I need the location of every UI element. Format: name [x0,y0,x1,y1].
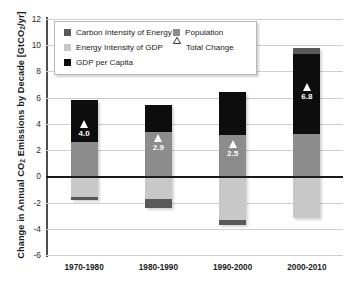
y-axis-title-sub-1: 2 [19,159,26,163]
bar-segment[interactable] [293,134,320,176]
total-change-marker [80,120,88,128]
bar-segment[interactable] [71,142,98,176]
bar-segment[interactable] [145,199,172,208]
y-axis-tick-label: 10 [32,40,41,50]
legend-color-swatch [173,29,180,36]
legend-item-label: Carbon Intensity of Energy [76,28,172,37]
legend-item[interactable]: GDP per Capita [64,58,133,67]
legend-item[interactable]: Population [173,28,223,37]
bar-segment[interactable] [71,176,98,196]
legend-item[interactable]: Total Change [173,43,234,52]
legend-item-label: GDP per Capita [76,58,133,67]
legend-item-label: Population [185,28,223,37]
total-change-marker [303,83,311,91]
legend-color-swatch [64,29,71,36]
y-axis-tick-label: -4 [34,224,41,234]
bar-segment[interactable] [219,176,246,219]
y-axis-tick-label: 6 [36,93,41,103]
y-axis-tick-label: 12 [32,14,41,24]
y-axis-title-sub-2: 2 [19,26,26,30]
legend-item-label: Total Change [186,43,234,52]
chart-figure: Change in Annual CO2 Emissions by Decade… [0,0,353,284]
bar-segment[interactable] [293,176,320,218]
y-axis-title-text-3: /yr] [16,11,26,26]
bar-segment[interactable] [71,197,98,200]
legend-color-swatch [64,59,71,66]
total-change-value-label: 4.0 [79,129,90,138]
zero-line: 0 [46,176,343,178]
y-axis-tick-label: 4 [36,119,41,129]
total-change-value-label: 2.9 [153,143,164,152]
x-axis-tick-label: 1970-1980 [65,263,104,272]
y-axis-tick-label: 2 [36,145,41,155]
x-axis-tick-label: 1990-2000 [213,263,252,272]
y-axis-line [46,17,48,257]
chart-legend: Carbon Intensity of EnergyEnergy Intensi… [54,21,257,75]
bar-segment[interactable] [219,92,246,135]
legend-item[interactable]: Carbon Intensity of Energy [64,28,172,37]
legend-item[interactable]: Energy Intensity of GDP [64,43,163,52]
total-change-marker [154,134,162,142]
bar-segment[interactable] [145,176,172,199]
legend-item-label: Energy Intensity of GDP [76,43,163,52]
y-axis-tick-label: 0 [36,171,41,181]
legend-color-swatch [64,44,71,51]
y-axis-tick-label: -6 [34,250,41,260]
bar-group[interactable]: 6.8 [293,19,320,255]
x-axis-tick-label: 1980-1990 [139,263,178,272]
x-axis-tick-label: 2000-2010 [287,263,326,272]
total-change-marker [229,140,237,148]
total-change-value-label: 6.8 [301,92,312,101]
y-axis-title-text: Change in Annual CO [16,163,26,259]
y-axis-title-text-2: Emissions by Decade [GtCO [16,30,26,159]
gridline: -6 [46,255,343,256]
y-axis-tick-label: 8 [36,66,41,76]
y-axis-title: Change in Annual CO2 Emissions by Decade… [16,10,26,260]
bar-segment[interactable] [145,105,172,133]
triangle-icon [173,44,181,51]
y-axis-tick-label: -2 [34,198,41,208]
total-change-value-label: 2.5 [227,149,238,158]
bar-segment[interactable] [219,220,246,225]
